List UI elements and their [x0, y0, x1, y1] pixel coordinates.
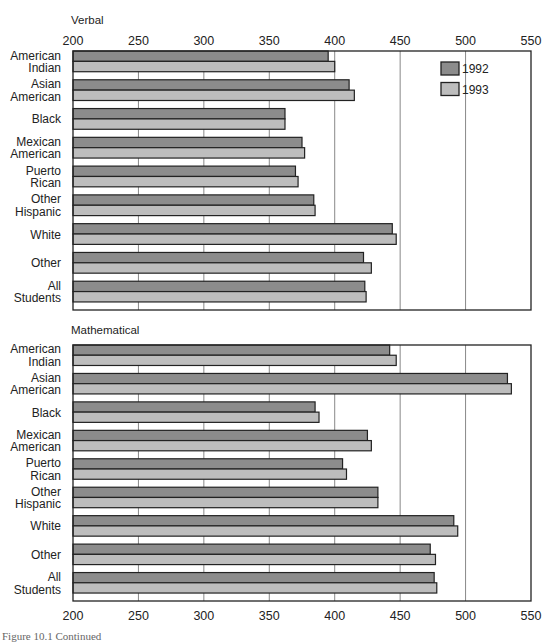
x-tick-label: 450	[390, 609, 411, 623]
category-label: Other	[31, 256, 61, 270]
bar-1993	[73, 263, 371, 273]
category-label: White	[30, 228, 61, 242]
x-tick-label: 450	[390, 34, 411, 48]
x-tick-label: 300	[193, 34, 214, 48]
bar-1993	[73, 384, 511, 394]
bar-1992	[73, 487, 378, 497]
category-label: Hispanic	[15, 497, 61, 511]
bar-1992	[73, 109, 285, 119]
bar-1992	[73, 573, 434, 583]
bar-1993	[73, 148, 305, 158]
category-label: Hispanic	[15, 205, 61, 219]
legend-label: 1992	[462, 62, 489, 76]
category-label: American	[10, 147, 61, 161]
x-tick-label: 550	[521, 34, 542, 48]
bar-1992	[73, 281, 365, 291]
legend-label: 1993	[462, 83, 489, 97]
category-label: American	[10, 383, 61, 397]
x-tick-label: 350	[259, 609, 280, 623]
bar-1993	[73, 583, 437, 593]
x-tick-label: 400	[324, 609, 345, 623]
x-tick-label: 500	[455, 609, 476, 623]
figure-caption: Figure 10.1 Continued	[2, 630, 101, 642]
category-label: American	[10, 440, 61, 454]
bar-1992	[73, 51, 328, 61]
x-tick-label: 350	[259, 34, 280, 48]
category-label: Rican	[30, 469, 61, 483]
category-label: White	[30, 519, 61, 533]
bar-1993	[73, 61, 335, 71]
bar-1992	[73, 373, 507, 383]
bar-1992	[73, 252, 364, 262]
bar-1993	[73, 292, 366, 302]
legend-swatch-1992	[441, 62, 459, 75]
bar-1993	[73, 497, 378, 507]
category-label: Rican	[30, 176, 61, 190]
x-tick-label: 500	[455, 34, 476, 48]
bar-1992	[73, 402, 315, 412]
bar-1992	[73, 544, 430, 554]
bar-1993	[73, 554, 435, 564]
x-tick-label: 250	[128, 609, 149, 623]
bar-1992	[73, 80, 349, 90]
x-tick-label: 550	[521, 609, 542, 623]
category-label: American	[10, 90, 61, 104]
bar-1992	[73, 195, 314, 205]
bar-1992	[73, 430, 367, 440]
bar-1993	[73, 412, 319, 422]
chart-title: Verbal	[71, 14, 104, 26]
category-label: Other	[31, 548, 61, 562]
bar-1993	[73, 526, 458, 536]
category-label: Black	[32, 406, 62, 420]
x-tick-label: 200	[63, 609, 84, 623]
category-label: Indian	[28, 61, 61, 75]
bar-1993	[73, 205, 315, 215]
bar-1993	[73, 469, 346, 479]
bar-1993	[73, 441, 371, 451]
bar-1992	[73, 166, 295, 176]
category-label: Students	[14, 291, 61, 305]
verbal-chart: AmericanIndianAsianAmericanBlackMexicanA…	[10, 14, 541, 310]
bar-1993	[73, 90, 354, 100]
bar-1993	[73, 234, 396, 244]
category-label: Students	[14, 583, 61, 597]
x-tick-label: 200	[63, 34, 84, 48]
legend-swatch-1993	[441, 83, 459, 96]
bar-1993	[73, 355, 396, 365]
bar-1992	[73, 516, 454, 526]
mathematical-chart: AmericanIndianAsianAmericanBlackMexicanA…	[10, 324, 541, 623]
category-label: Black	[32, 112, 62, 126]
bar-1992	[73, 459, 343, 469]
x-tick-label: 300	[193, 609, 214, 623]
chart-title: Mathematical	[71, 324, 139, 336]
x-tick-label: 250	[128, 34, 149, 48]
bar-1993	[73, 119, 285, 129]
bar-1993	[73, 176, 298, 186]
category-label: Indian	[28, 355, 61, 369]
bar-1992	[73, 345, 390, 355]
bar-1992	[73, 137, 302, 147]
x-tick-label: 400	[324, 34, 345, 48]
bar-1992	[73, 224, 392, 234]
